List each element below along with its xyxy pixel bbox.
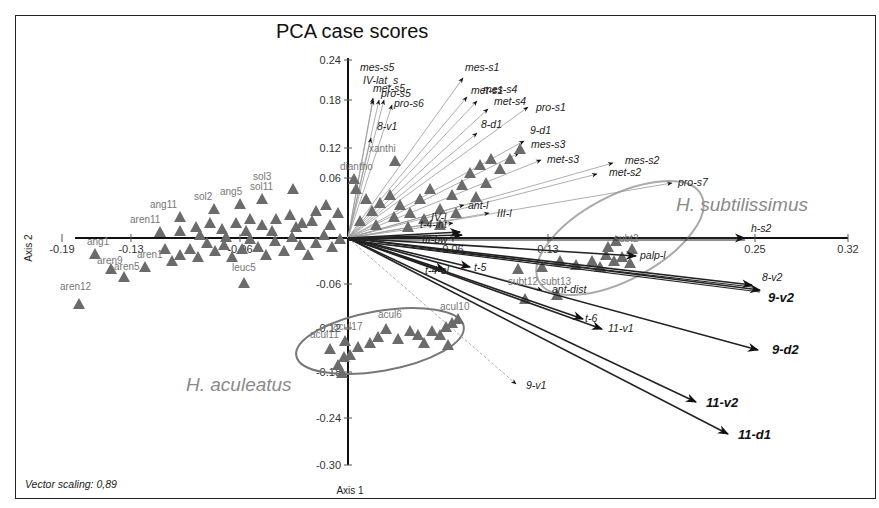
- group-label-aculeatus: H. aculeatus: [186, 374, 292, 395]
- case-label: acul6: [378, 309, 402, 320]
- case-point: [414, 193, 426, 204]
- case-point: [238, 277, 250, 288]
- x-tick-label: 0.32: [837, 243, 858, 255]
- case-point: [286, 231, 298, 242]
- case-label: sol3: [253, 171, 272, 182]
- case-point: [339, 335, 351, 346]
- x-tick-label: -0.19: [49, 243, 74, 255]
- case-label: acul10: [440, 301, 470, 312]
- y-tick-label: 0.06: [320, 172, 341, 184]
- vector-label: pro-s7: [677, 176, 709, 188]
- case-point: [174, 225, 186, 236]
- case-label: acul11: [310, 329, 339, 340]
- vector-label: met-s2: [609, 166, 641, 178]
- case-point: [256, 219, 268, 230]
- case-point: [230, 217, 242, 228]
- vector-label: pro-s6: [393, 97, 424, 109]
- case-point: [320, 199, 332, 210]
- pca-biplot: PCA case scores -0.19-0.13-0.060.060.130…: [0, 0, 879, 508]
- chart-title: PCA case scores: [276, 20, 428, 42]
- vector-label: 9-v2: [768, 290, 795, 305]
- vector-label: 9-d1: [530, 124, 551, 136]
- case-point: [404, 325, 416, 336]
- case-point: [310, 205, 322, 216]
- vector-label: 9-v1: [526, 379, 546, 391]
- case-point: [456, 179, 468, 190]
- vector-arrow: [348, 238, 696, 402]
- case-point: [514, 143, 526, 154]
- case-point: [480, 177, 492, 188]
- y-tick-label: 0.12: [320, 142, 341, 154]
- vector-label: mes-s4: [483, 83, 518, 95]
- case-point: [426, 325, 438, 336]
- vector-scaling-note: Vector scaling: 0,89: [25, 478, 117, 490]
- case-point: [318, 229, 330, 240]
- vector-label: 8-d1: [481, 118, 502, 130]
- case-point: [384, 189, 396, 200]
- case-point: [306, 215, 318, 226]
- y-tick-label: -0.30: [316, 459, 341, 471]
- case-points: [73, 143, 638, 378]
- case-point: [324, 343, 336, 354]
- case-point: [352, 341, 364, 352]
- vector-label: mes-s1: [465, 61, 499, 73]
- case-point: [118, 271, 130, 282]
- case-point: [287, 183, 299, 194]
- case-label: aren12: [60, 281, 92, 292]
- vector-label: 8-v2: [762, 271, 783, 283]
- vector-label: t-6: [585, 312, 597, 324]
- vector-label: met-s3: [547, 153, 579, 165]
- case-point: [380, 323, 392, 334]
- case-point: [485, 153, 497, 164]
- vector-label: III-bw: [422, 233, 449, 245]
- vector-label: 11-d1: [738, 427, 771, 442]
- vector-label: 9-d2: [772, 342, 800, 357]
- case-point: [284, 209, 296, 220]
- x-tick-label: 0.25: [744, 243, 765, 255]
- vector-label: 8-v1: [377, 120, 397, 132]
- case-point: [504, 153, 516, 164]
- case-label: leuc5: [232, 262, 256, 273]
- case-label: subt2: [614, 233, 639, 244]
- case-point: [324, 219, 336, 230]
- case-label: aren1: [137, 249, 163, 260]
- vector-label: 11-v1: [608, 322, 634, 334]
- case-point: [626, 243, 638, 254]
- case-point: [73, 298, 85, 309]
- case-point: [244, 213, 256, 224]
- case-point: [240, 225, 252, 236]
- case-point: [154, 226, 166, 237]
- case-point: [174, 211, 186, 222]
- case-point: [278, 245, 290, 256]
- case-point: [360, 193, 372, 204]
- case-label: aren11: [130, 214, 161, 225]
- x-axis-label: Axis 1: [336, 485, 364, 496]
- y-axis-label: Axis 2: [23, 234, 34, 262]
- vector-label: pro-s1: [535, 101, 566, 113]
- vector-label: t-4-el: [425, 264, 450, 276]
- case-point: [474, 159, 486, 170]
- case-point: [302, 249, 314, 260]
- vector-label: ant-l: [468, 199, 489, 211]
- case-point: [234, 198, 246, 209]
- case-label: aren5: [114, 261, 140, 272]
- case-point: [332, 207, 344, 218]
- vector-label: mes-s3: [531, 138, 566, 150]
- case-point: [586, 255, 598, 266]
- y-tick-label: -0.06: [316, 278, 341, 290]
- case-point: [404, 207, 416, 218]
- case-point: [392, 333, 404, 344]
- group-label-subtilissimus: H. subtilissimus: [676, 194, 808, 215]
- y-tick-label: 0.24: [320, 54, 341, 66]
- vector-label: t-4-int: [420, 218, 448, 230]
- case-point: [512, 263, 524, 274]
- vector-label: met-s4: [494, 95, 526, 107]
- y-tick-label: -0.24: [316, 412, 341, 424]
- case-point: [208, 203, 220, 214]
- vector-label: mes-s2: [625, 154, 660, 166]
- case-label: subt13: [541, 276, 571, 287]
- case-label: ang5: [220, 186, 243, 197]
- vector-label: h-s2: [751, 222, 772, 234]
- case-point: [184, 243, 196, 254]
- case-point: [256, 193, 268, 204]
